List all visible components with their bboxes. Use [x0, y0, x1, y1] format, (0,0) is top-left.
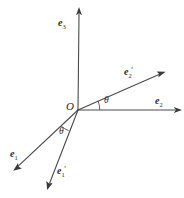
- rotation-diagram: e3 e2 e2′ e1 e1′ O θ θ: [0, 0, 184, 198]
- origin-label: O: [66, 101, 74, 112]
- axis-label-e1-subscript: 1: [14, 154, 17, 161]
- e3-axis-graphic: [76, 7, 82, 110]
- e2-prime-axis-graphic: [78, 72, 166, 110]
- angle-label-theta-upper: θ: [104, 96, 109, 106]
- axis-label-e1-prime-mark: ′: [64, 165, 66, 174]
- axis-label-e1: e1: [10, 144, 17, 161]
- e1-prime-axis-graphic: [46, 110, 78, 190]
- axis-label-e3-subscript: 3: [62, 23, 65, 30]
- axis-label-e2-subscript: 2: [159, 101, 162, 108]
- axis-label-e2: e2: [155, 91, 162, 108]
- axis-label-e1-prime: e1′: [57, 161, 66, 178]
- axis-label-e2-prime: e2′: [124, 62, 133, 79]
- theta-upper-arc: [98, 101, 100, 110]
- e1-axis-graphic: [13, 110, 78, 171]
- axis-label-e2-prime-mark: ′: [131, 66, 133, 75]
- e2-axis-graphic: [78, 107, 182, 113]
- axis-label-e3: e3: [58, 13, 65, 30]
- angle-label-theta-lower: θ: [59, 127, 64, 137]
